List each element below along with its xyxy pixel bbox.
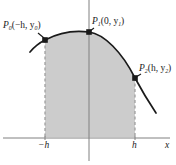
point-label-p0-coords: (−h, y [12, 20, 35, 30]
point-label-p1-coords: (0, y [101, 16, 118, 26]
point-label-p1-index: 1 [98, 21, 101, 27]
x-tick-label-minus-h: −h [38, 141, 49, 151]
parabola-figure: P0(−h, y0) P1(0, y1) P2(h, y2) −h h x [0, 0, 176, 165]
leader-line-p0 [38, 33, 44, 38]
point-label-p2-coords-index: 2 [165, 68, 168, 74]
point-label-p1: P1(0, y1) [92, 17, 124, 27]
point-label-p2-coords: (h, y [148, 63, 165, 73]
point-label-p1-p: P [92, 16, 98, 26]
point-marker-p0 [42, 37, 48, 43]
point-label-p2-p: P [139, 63, 145, 73]
point-label-p2: P2(h, y2) [139, 64, 171, 74]
point-label-p0: P0(−h, y0) [3, 21, 41, 31]
point-label-p2-index: 2 [145, 68, 148, 74]
point-label-p2-coords-end: ) [168, 63, 171, 73]
point-label-p1-coords-index: 1 [118, 21, 121, 27]
shaded-region [45, 31, 135, 137]
x-axis-label: x [165, 141, 169, 151]
point-label-p0-index: 0 [9, 25, 12, 31]
x-tick-label-h: h [132, 141, 137, 151]
point-label-p0-coords-end: ) [37, 20, 40, 30]
point-label-p1-coords-end: ) [121, 16, 124, 26]
point-label-p0-p: P [3, 20, 9, 30]
